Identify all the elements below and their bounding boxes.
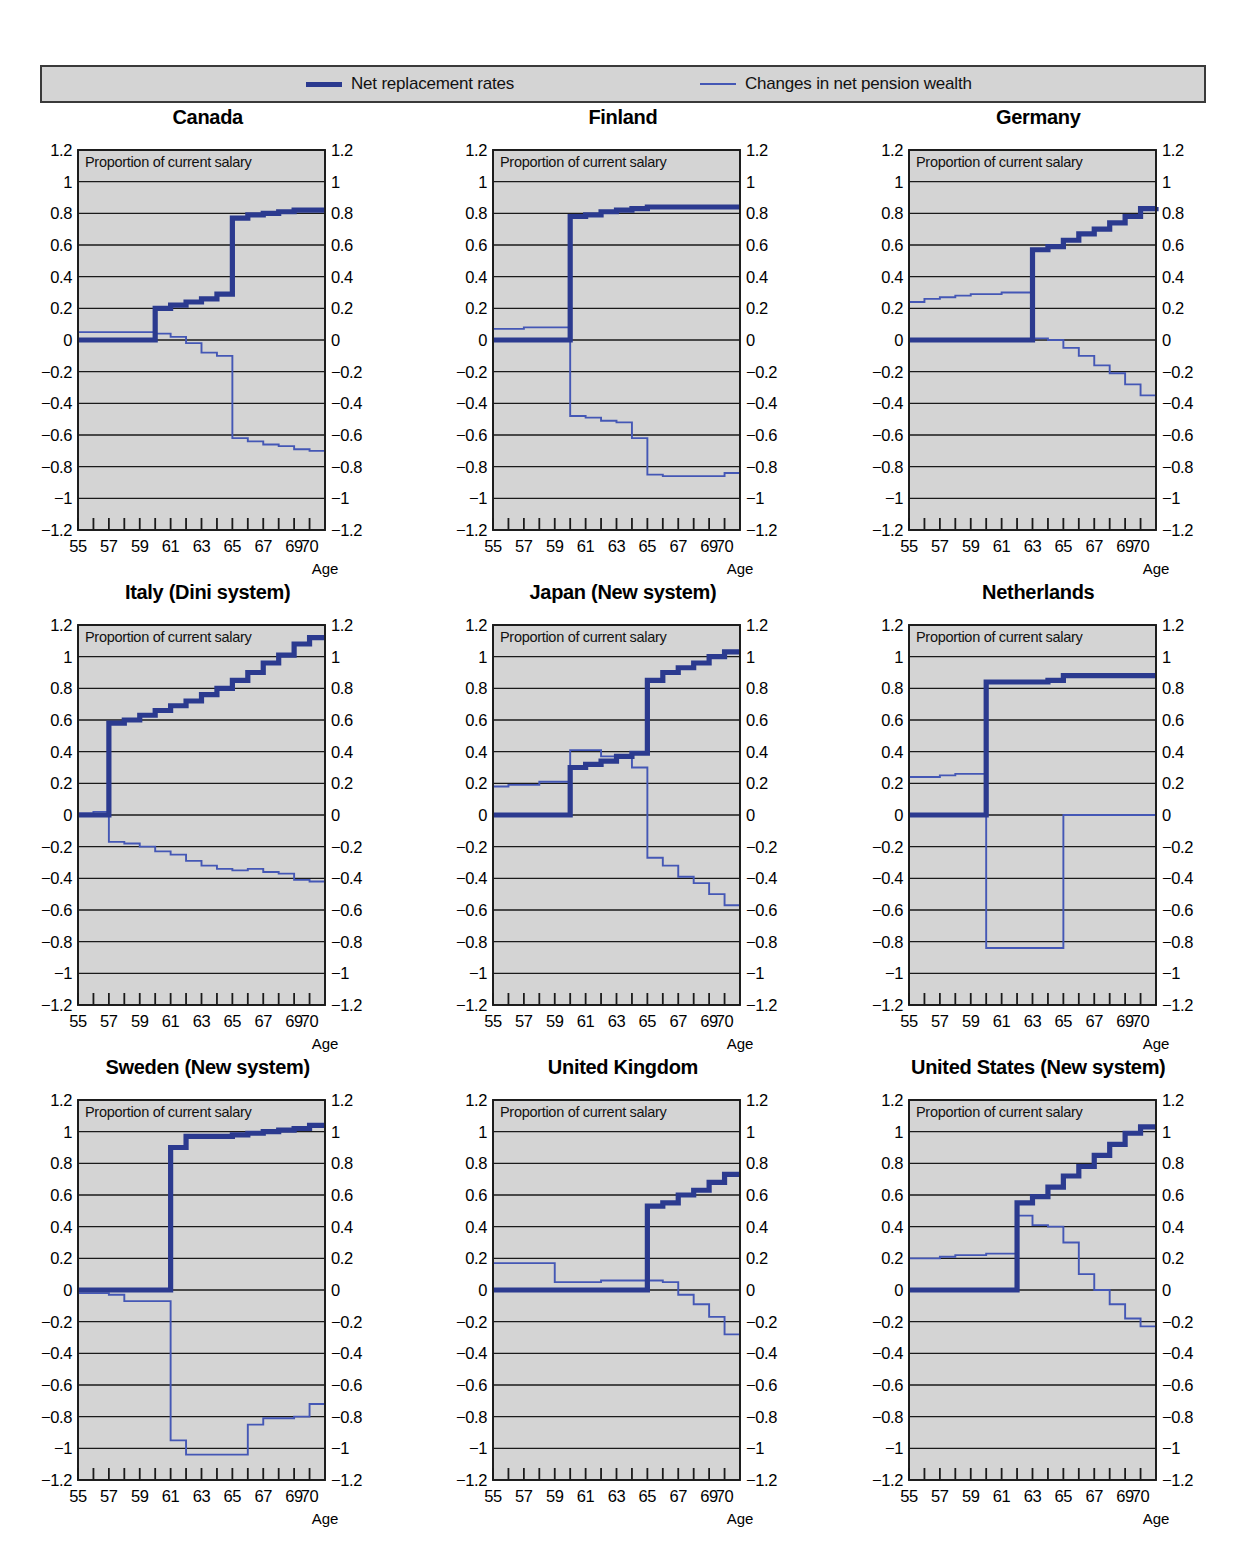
ytick-label-left: −1 [54,1439,72,1457]
ytick-label-right: 0.8 [331,204,353,222]
ytick-label-left: 0 [894,331,903,349]
ytick-label-right: −1.2 [1162,521,1193,539]
xtick-label: 65 [224,537,242,555]
xtick-label: 70 [1131,1012,1149,1030]
ytick-label-left: 0.2 [50,1249,72,1267]
xtick-label: 57 [100,1012,118,1030]
ytick-label-right: −1.2 [331,996,362,1014]
ytick-label-left: −0.4 [872,394,903,412]
ytick-label-right: 0.2 [746,774,768,792]
ytick-label-left: −1.2 [41,521,72,539]
xtick-label: 65 [224,1012,242,1030]
axis-note: Proportion of current salary [916,1104,1084,1120]
panel-title: Germany [831,106,1246,129]
xtick-label: 55 [485,537,503,555]
ytick-label-left: −0.8 [41,458,72,476]
ytick-label-right: 1 [331,173,340,191]
ytick-label-left: −0.6 [456,901,487,919]
ytick-label-left: 0 [63,1281,72,1299]
xaxis-title: Age [1142,1035,1169,1052]
ytick-label-right: −0.2 [331,838,362,856]
xaxis-title: Age [1142,560,1169,577]
xtick-label: 61 [992,1487,1010,1505]
xtick-label: 63 [193,1487,211,1505]
ytick-label-left: 1.2 [881,1091,903,1109]
panel-title: United Kingdom [415,1056,830,1079]
ytick-label-left: −1.2 [41,1471,72,1489]
ytick-label-left: 1.2 [466,141,488,159]
ytick-label-left: −0.6 [41,901,72,919]
xtick-label: 59 [131,1487,149,1505]
xtick-label: 57 [515,1012,533,1030]
xtick-label: 55 [69,537,87,555]
ytick-label-right: 0.2 [331,774,353,792]
ytick-label-left: −0.4 [41,394,72,412]
ytick-label-left: −0.2 [456,838,487,856]
ytick-label-left: 0.6 [466,236,488,254]
ytick-label-left: 1 [63,648,72,666]
ytick-label-right: 1 [331,648,340,666]
ytick-label-left: 1.2 [466,1091,488,1109]
ytick-label-right: 0.2 [1162,774,1184,792]
ytick-label-left: −0.6 [41,1376,72,1394]
xtick-label: 61 [162,1487,180,1505]
chart-panel-germany: Germany1.21.2110.80.80.60.60.40.40.20.20… [831,106,1246,581]
ytick-label-left: 0.2 [50,774,72,792]
ytick-label-right: 1 [746,173,755,191]
ytick-label-left: −0.4 [872,1344,903,1362]
ytick-label-left: 1 [479,1123,488,1141]
panel-plot: 1.21.2110.80.80.60.60.40.40.20.200−0.2−0… [415,1080,830,1531]
ytick-label-right: 0 [746,806,755,824]
ytick-label-left: 0.4 [50,743,72,761]
xtick-label: 65 [1054,1012,1072,1030]
ytick-label-right: 1 [1162,173,1171,191]
ytick-label-left: −0.4 [456,1344,487,1362]
panel-plot: 1.21.2110.80.80.60.60.40.40.20.200−0.2−0… [831,605,1246,1056]
xaxis-title: Age [727,1035,754,1052]
ytick-label-left: −0.6 [872,901,903,919]
ytick-label-left: −0.6 [872,426,903,444]
ytick-label-right: 0.6 [331,236,353,254]
ytick-label-left: 1.2 [881,616,903,634]
xtick-label: 55 [69,1487,87,1505]
axis-note: Proportion of current salary [85,1104,253,1120]
ytick-label-left: 0.8 [881,1154,903,1172]
ytick-label-right: −0.8 [331,933,362,951]
xtick-label: 57 [931,537,949,555]
ytick-label-right: −0.4 [746,869,777,887]
ytick-label-right: 1.2 [331,141,353,159]
ytick-label-left: 0.6 [881,1186,903,1204]
ytick-label-left: −0.4 [456,869,487,887]
ytick-label-right: 1.2 [331,616,353,634]
ytick-label-right: −1 [331,964,349,982]
ytick-label-left: 0.2 [466,299,488,317]
xtick-label: 67 [254,537,272,555]
panel-grid: Canada1.21.2110.80.80.60.60.40.40.20.200… [0,106,1246,1531]
ytick-label-left: 1.2 [50,141,72,159]
xtick-label: 70 [716,1487,734,1505]
ytick-label-right: −0.4 [746,1344,777,1362]
xtick-label: 63 [1023,1487,1041,1505]
xaxis-title: Age [727,560,754,577]
ytick-label-right: 1.2 [746,141,768,159]
panel-plot: 1.21.2110.80.80.60.60.40.40.20.200−0.2−0… [415,605,830,1056]
ytick-label-left: 0 [63,806,72,824]
panel-title: Sweden (New system) [0,1056,415,1079]
chart-panel-canada: Canada1.21.2110.80.80.60.60.40.40.20.200… [0,106,415,581]
ytick-label-right: 0.6 [746,236,768,254]
ytick-label-right: 0.4 [1162,1218,1184,1236]
ytick-label-left: −0.2 [41,1313,72,1331]
xtick-label: 65 [1054,537,1072,555]
xtick-label: 61 [162,537,180,555]
ytick-label-left: 0.6 [50,236,72,254]
ytick-label-left: −0.2 [872,1313,903,1331]
ytick-label-right: 0.6 [1162,711,1184,729]
ytick-label-right: −0.2 [331,363,362,381]
ytick-label-right: −1.2 [746,1471,777,1489]
ytick-label-left: −0.4 [41,1344,72,1362]
ytick-label-right: 0.6 [746,1186,768,1204]
xtick-label: 57 [100,1487,118,1505]
ytick-label-left: 0.2 [466,1249,488,1267]
ytick-label-left: 0 [479,1281,488,1299]
ytick-label-left: −0.8 [456,933,487,951]
